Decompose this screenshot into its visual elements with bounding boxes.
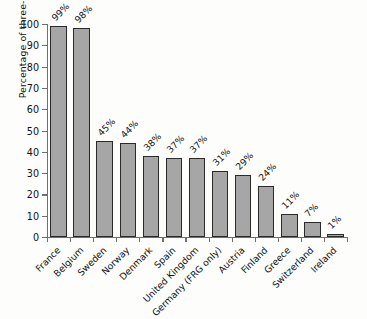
y-tick-mark bbox=[42, 131, 47, 132]
bar-value-label: 98% bbox=[72, 3, 94, 25]
x-tick-mark bbox=[278, 237, 279, 242]
bar-value-label: 7% bbox=[303, 201, 321, 219]
bar-value-label: 37% bbox=[187, 133, 209, 155]
x-tick-mark bbox=[347, 237, 348, 242]
bar-value-label: 11% bbox=[280, 188, 302, 210]
y-tick-label: 40 bbox=[27, 146, 39, 157]
bar-value-label: 99% bbox=[49, 1, 71, 23]
x-tick-mark bbox=[324, 237, 325, 242]
y-tick-label: 60 bbox=[27, 104, 39, 115]
y-tick-mark bbox=[42, 67, 47, 68]
plot-area: 0102030405060708090100 99%98%45%44%38%37… bbox=[47, 24, 347, 237]
y-tick-label: 70 bbox=[27, 82, 39, 93]
y-tick-label: 90 bbox=[27, 40, 39, 51]
bar: 44% bbox=[120, 143, 137, 237]
bar: 7% bbox=[304, 222, 321, 237]
x-tick-mark bbox=[70, 237, 71, 242]
bar: 31% bbox=[212, 171, 229, 237]
x-tick-mark bbox=[47, 237, 48, 242]
bar-value-label: 24% bbox=[256, 161, 278, 183]
x-tick-mark bbox=[162, 237, 163, 242]
y-tick-mark bbox=[42, 24, 47, 25]
y-tick-mark bbox=[42, 109, 47, 110]
y-tick-label: 30 bbox=[27, 168, 39, 179]
bar: 24% bbox=[258, 186, 275, 237]
y-tick-mark bbox=[42, 173, 47, 174]
x-tick-mark bbox=[209, 237, 210, 242]
bar-chart: Percentage of three-year-olds 0102030405… bbox=[0, 0, 367, 319]
x-tick-mark bbox=[116, 237, 117, 242]
y-tick-mark bbox=[42, 194, 47, 195]
x-tick-mark bbox=[185, 237, 186, 242]
bar: 1% bbox=[327, 234, 344, 237]
y-tick-label: 20 bbox=[27, 189, 39, 200]
x-tick-mark bbox=[232, 237, 233, 242]
y-tick-mark bbox=[42, 88, 47, 89]
bar: 11% bbox=[281, 214, 298, 237]
y-tick-label: 0 bbox=[33, 232, 39, 243]
y-tick-label: 100 bbox=[21, 19, 39, 30]
bar: 99% bbox=[50, 26, 67, 237]
x-tick-mark bbox=[139, 237, 140, 242]
y-axis-line bbox=[47, 24, 48, 237]
bar-value-label: 31% bbox=[210, 146, 232, 168]
bar: 45% bbox=[96, 141, 113, 237]
x-tick-mark bbox=[255, 237, 256, 242]
bar: 38% bbox=[143, 156, 160, 237]
bar-value-label: 37% bbox=[164, 133, 186, 155]
bar: 29% bbox=[235, 175, 252, 237]
bar: 37% bbox=[189, 158, 206, 237]
bar-value-label: 45% bbox=[95, 116, 117, 138]
bar: 37% bbox=[166, 158, 183, 237]
y-tick-mark bbox=[42, 152, 47, 153]
bar-value-label: 38% bbox=[141, 131, 163, 153]
y-tick-label: 10 bbox=[27, 210, 39, 221]
bar-value-label: 1% bbox=[326, 213, 344, 231]
y-tick-mark bbox=[42, 45, 47, 46]
y-tick-label: 50 bbox=[27, 125, 39, 136]
y-tick-label: 80 bbox=[27, 61, 39, 72]
bar-value-label: 29% bbox=[233, 150, 255, 172]
x-tick-mark bbox=[93, 237, 94, 242]
bar-value-label: 44% bbox=[118, 118, 140, 140]
y-tick-mark bbox=[42, 216, 47, 217]
x-tick-mark bbox=[301, 237, 302, 242]
bar: 98% bbox=[73, 28, 90, 237]
